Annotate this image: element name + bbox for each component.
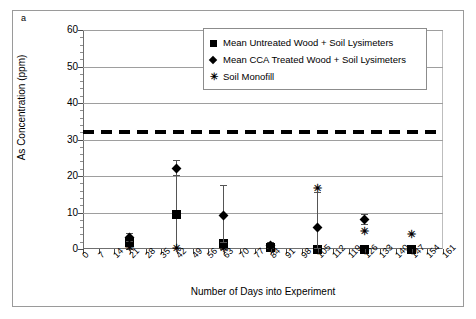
data-point-cross: ✳ [360, 226, 370, 236]
data-point-cross: ✳ [407, 229, 417, 239]
legend-item: Mean Untreated Wood + Soil Lysimeters [210, 34, 422, 51]
figure-container: a As Concentration (ppm) 0102030405060 ✳… [0, 0, 476, 319]
diamond-marker-icon [210, 51, 223, 69]
error-bar-cap [173, 160, 180, 161]
y-tick-label: 20 [44, 171, 78, 181]
data-point-square [172, 210, 181, 219]
y-axis-tick-labels: 0102030405060 [38, 30, 78, 249]
y-tick-label: 60 [44, 25, 78, 35]
gridline [83, 140, 443, 141]
legend-label: Mean Untreated Wood + Soil Lysimeters [223, 37, 393, 48]
chart-legend: Mean Untreated Wood + Soil LysimetersMea… [203, 28, 427, 90]
threshold-dashed-line [83, 130, 443, 134]
x-axis-tick-labels: 0714212835424956637077849198105112119126… [83, 253, 443, 287]
cross-marker-icon: ✳ [210, 68, 223, 86]
y-tick-label: 50 [44, 62, 78, 72]
data-point-cross: ✳ [313, 183, 323, 193]
y-tick-label: 40 [44, 98, 78, 108]
gridline [83, 103, 443, 104]
x-axis-title: Number of Days into Experiment [83, 286, 443, 297]
y-tick-label: 30 [44, 135, 78, 145]
error-bar [317, 192, 318, 248]
gridline [83, 176, 443, 177]
legend-item: ✳Soil Monofill [210, 68, 422, 85]
y-axis-title: As Concentration (ppm) [16, 13, 27, 203]
y-tick-label: 10 [44, 208, 78, 218]
error-bar-cap [220, 185, 227, 186]
error-bar [176, 167, 177, 248]
legend-label: Mean CCA Treated Wood + Soil Lysimeters [223, 54, 406, 65]
gridline [83, 213, 443, 214]
square-marker-icon [210, 34, 223, 52]
legend-item: Mean CCA Treated Wood + Soil Lysimeters [210, 51, 422, 68]
error-bar-cap [173, 175, 180, 176]
y-tick-label: 0 [44, 244, 78, 254]
legend-label: Soil Monofill [223, 71, 274, 82]
